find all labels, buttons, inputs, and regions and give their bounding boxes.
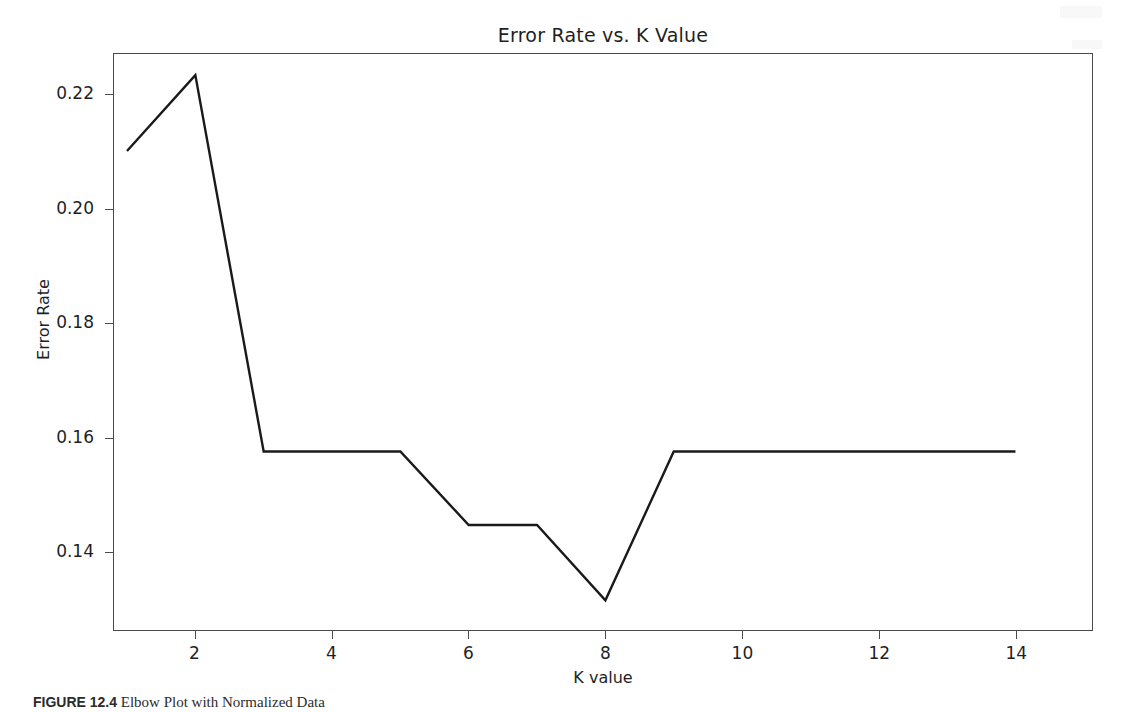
x-tick-label: 4 (302, 643, 362, 663)
x-tick-label: 14 (986, 643, 1046, 663)
x-tick-mark (468, 631, 469, 639)
y-tick-mark (105, 552, 113, 553)
x-tick-mark (879, 631, 880, 639)
scan-artifact (1060, 6, 1102, 18)
y-axis-label: Error Rate (34, 260, 53, 380)
figure-caption: FIGURE 12.4 Elbow Plot with Normalized D… (33, 694, 325, 711)
x-tick-label: 12 (849, 643, 909, 663)
y-tick-label: 0.18 (56, 312, 94, 332)
y-tick-mark (105, 438, 113, 439)
x-axis-label: K value (113, 668, 1093, 687)
figure-caption-text: Elbow Plot with Normalized Data (121, 694, 325, 710)
x-tick-mark (195, 631, 196, 639)
x-tick-mark (605, 631, 606, 639)
figure-container: Error Rate vs. K Value 0.140.160.180.200… (0, 0, 1128, 712)
y-tick-label: 0.20 (56, 198, 94, 218)
x-tick-mark (332, 631, 333, 639)
x-tick-label: 6 (438, 643, 498, 663)
x-tick-label: 8 (575, 643, 635, 663)
y-tick-label: 0.14 (56, 541, 94, 561)
x-tick-mark (742, 631, 743, 639)
x-tick-mark (1016, 631, 1017, 639)
chart-title: Error Rate vs. K Value (113, 24, 1093, 46)
error-rate-line-series (114, 54, 1092, 630)
figure-caption-label: FIGURE 12.4 (33, 694, 117, 710)
y-tick-mark (105, 323, 113, 324)
y-tick-mark (105, 94, 113, 95)
x-tick-label: 2 (165, 643, 225, 663)
y-tick-label: 0.16 (56, 427, 94, 447)
x-tick-label: 10 (712, 643, 772, 663)
y-tick-mark (105, 209, 113, 210)
y-tick-label: 0.22 (56, 83, 94, 103)
plot-area (113, 53, 1093, 631)
